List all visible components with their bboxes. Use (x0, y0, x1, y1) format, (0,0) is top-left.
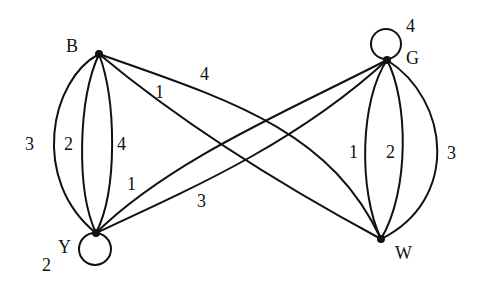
weight-b-y-middle: 2 (64, 134, 73, 154)
loop-y (79, 233, 111, 265)
node-label-g: G (406, 48, 419, 68)
weight-y-g-upper: 1 (127, 174, 136, 194)
node-g (383, 56, 391, 64)
weight-g-w-middle: 2 (386, 142, 395, 162)
graph-diagram: B G Y W 3 2 4 1 4 1 3 1 2 3 4 2 (0, 0, 484, 282)
edge-b-y-middle (82, 54, 99, 233)
weight-g-w-left: 1 (349, 142, 358, 162)
weight-b-w-lower: 1 (155, 82, 164, 102)
node-w (377, 235, 385, 243)
weight-g-loop: 4 (406, 16, 415, 36)
weight-g-w-right: 3 (447, 143, 456, 163)
weight-b-y-outer: 3 (25, 134, 34, 154)
node-y (92, 229, 100, 237)
weight-b-w-upper: 4 (200, 64, 209, 84)
weight-b-y-inner: 4 (117, 134, 126, 154)
node-label-y: Y (58, 237, 71, 257)
edge-b-y-outer (54, 54, 99, 233)
node-label-w: W (395, 243, 412, 263)
node-b (95, 50, 103, 58)
weight-y-loop: 2 (42, 255, 51, 275)
loop-g (371, 29, 401, 59)
weight-y-g-lower: 3 (197, 191, 206, 211)
node-label-b: B (66, 36, 78, 56)
edge-b-y-inner (96, 54, 112, 233)
edge-g-w-left (365, 60, 387, 239)
